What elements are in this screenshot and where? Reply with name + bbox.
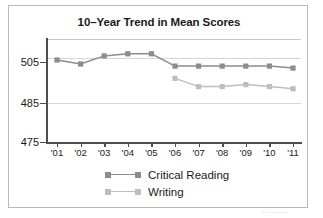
legend-item-writing: Writing: [105, 183, 229, 200]
data-point-marker: [243, 82, 248, 87]
data-point-marker: [172, 64, 177, 69]
cutoff-footer-text: ·· ··· ·· ··: [262, 209, 289, 216]
chart-legend: Critical Reading Writing: [105, 166, 229, 200]
data-point-marker: [78, 61, 83, 66]
data-point-marker: [125, 51, 130, 56]
legend-label-writing: Writing: [148, 186, 184, 198]
data-point-marker: [290, 86, 295, 91]
data-point-marker: [149, 51, 154, 56]
legend-swatch-critical-reading: [105, 170, 141, 180]
data-point-marker: [196, 64, 201, 69]
data-point-marker: [172, 76, 177, 81]
data-point-marker: [102, 53, 107, 58]
data-point-marker: [290, 66, 295, 71]
series-line-writing: [175, 78, 293, 88]
data-point-marker: [196, 84, 201, 89]
legend-swatch-writing: [105, 187, 141, 197]
data-point-marker: [220, 84, 225, 89]
data-point-marker: [267, 64, 272, 69]
chart-frame: 10–Year Trend in Mean Scores 505 485 475…: [8, 5, 308, 208]
legend-item-critical-reading: Critical Reading: [105, 166, 229, 183]
legend-label-critical-reading: Critical Reading: [148, 169, 229, 181]
data-point-marker: [220, 64, 225, 69]
data-point-marker: [54, 57, 59, 62]
data-point-marker: [243, 64, 248, 69]
data-point-marker: [267, 84, 272, 89]
